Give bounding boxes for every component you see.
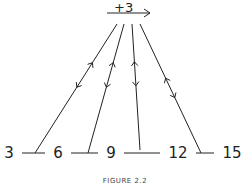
relation-line (35, 24, 117, 153)
number-label: 3 (4, 144, 14, 162)
operator-diagram: +3 3691215 FIGURE 2.2 (0, 0, 251, 184)
number-label: 9 (106, 144, 116, 162)
relation-line (140, 24, 201, 153)
number-label: 15 (222, 144, 241, 162)
number-label: 12 (168, 144, 187, 162)
relation-line (88, 24, 124, 153)
figure-caption: FIGURE 2.2 (103, 177, 147, 184)
number-label: 6 (53, 144, 63, 162)
relation-line (131, 24, 140, 150)
